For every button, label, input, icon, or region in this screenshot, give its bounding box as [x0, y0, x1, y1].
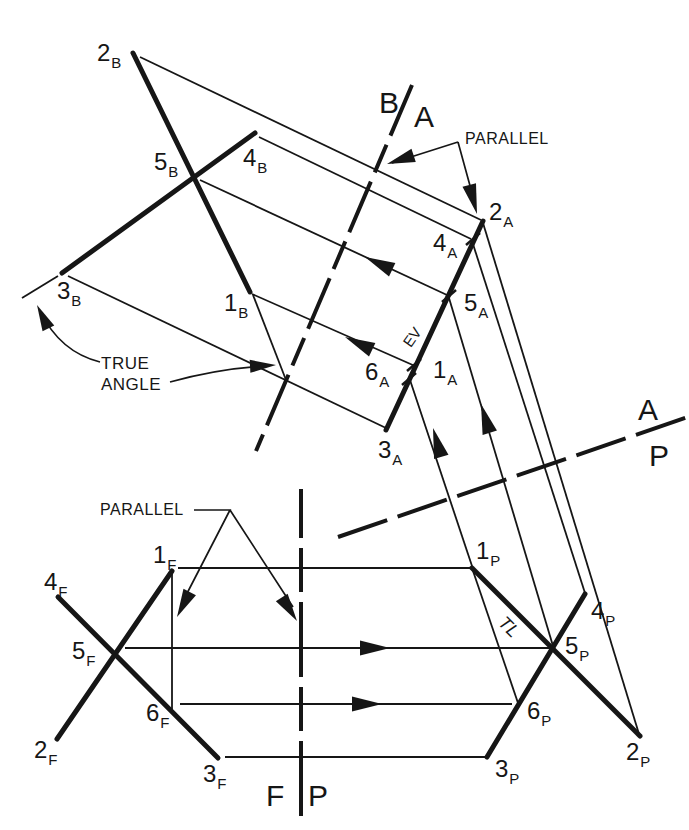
fold-label-P-bottom: P — [308, 781, 328, 811]
point-label-2P: 2P — [626, 740, 650, 764]
true-angle-note: TRUE ANGLE — [101, 353, 161, 395]
arrow-proj-1B-6A — [342, 330, 376, 356]
point-label-5B: 5B — [154, 150, 178, 174]
point-label-5P: 5P — [565, 634, 589, 658]
point-label-1P: 1P — [476, 539, 500, 563]
arrow-parallel-bottom-right — [276, 594, 303, 625]
point-label-6P: 6P — [527, 699, 551, 723]
fold-label-A-right: A — [638, 395, 658, 425]
point-label-1F: 1F — [153, 543, 177, 567]
point-label-2B: 2B — [97, 41, 121, 65]
ext-line-3B — [22, 276, 58, 298]
arrow-proj-1P-1A — [426, 426, 449, 459]
arrow-true-angle-right — [250, 359, 277, 373]
figure-linework — [0, 0, 689, 830]
proj-4B-4A — [259, 137, 471, 239]
leader-true-angle-left — [40, 311, 100, 362]
proj-5B-5A — [200, 180, 447, 295]
parallel-note-bottom: PARALLEL — [100, 502, 184, 518]
fold-label-F: F — [266, 781, 284, 811]
arrow-parallel-top-right — [462, 183, 483, 216]
true-angle-line1: TRUE — [101, 353, 161, 374]
point-label-3A: 3A — [378, 438, 402, 462]
proj-2B-2A — [140, 57, 481, 220]
point-label-5F: 5F — [72, 639, 96, 663]
point-label-3B: 3B — [57, 279, 81, 303]
point-label-4F: 4F — [44, 570, 68, 594]
fold-line-A-P — [338, 417, 688, 537]
point-label-1B: 1B — [224, 291, 248, 315]
point-label-4B: 4B — [243, 146, 267, 170]
arrow-proj-6F-6P — [352, 697, 382, 712]
point-label-3F: 3F — [203, 762, 227, 786]
point-label-2A: 2A — [489, 200, 513, 224]
point-label-4A: 4A — [433, 231, 457, 255]
proj-1P-1A — [410, 380, 472, 566]
fold-label-B: B — [379, 88, 399, 118]
arrow-proj-5F-5P — [360, 641, 390, 656]
true-angle-line2: ANGLE — [101, 374, 161, 395]
line-2B-1B — [133, 53, 250, 292]
point-label-3P: 3P — [495, 757, 519, 781]
fold-label-P-right: P — [649, 441, 669, 471]
point-label-4P: 4P — [591, 599, 615, 623]
point-label-5A: 5A — [464, 291, 488, 315]
leader-parallel-bottom — [181, 510, 293, 607]
fold-label-A-top: A — [414, 102, 434, 132]
arrow-parallel-top-left — [385, 149, 416, 171]
parallel-note-top: PARALLEL — [465, 131, 549, 147]
leader-parallel-top — [392, 142, 472, 193]
arrow-proj-5B-5A — [362, 250, 396, 276]
point-label-2F: 2F — [34, 738, 58, 762]
point-label-6F: 6F — [146, 701, 170, 725]
point-label-6A: 6A — [365, 360, 389, 384]
descriptive-geometry-figure: 2B5B4B3B1B2A4A5A6A1A3A1F4F5F6F2F3F1P4P5P… — [0, 0, 689, 830]
arrow-proj-5P-5A — [474, 402, 497, 435]
point-label-1A: 1A — [433, 358, 457, 382]
arrow-parallel-bottom-left — [171, 589, 196, 620]
arrow-true-angle-left — [31, 302, 54, 331]
